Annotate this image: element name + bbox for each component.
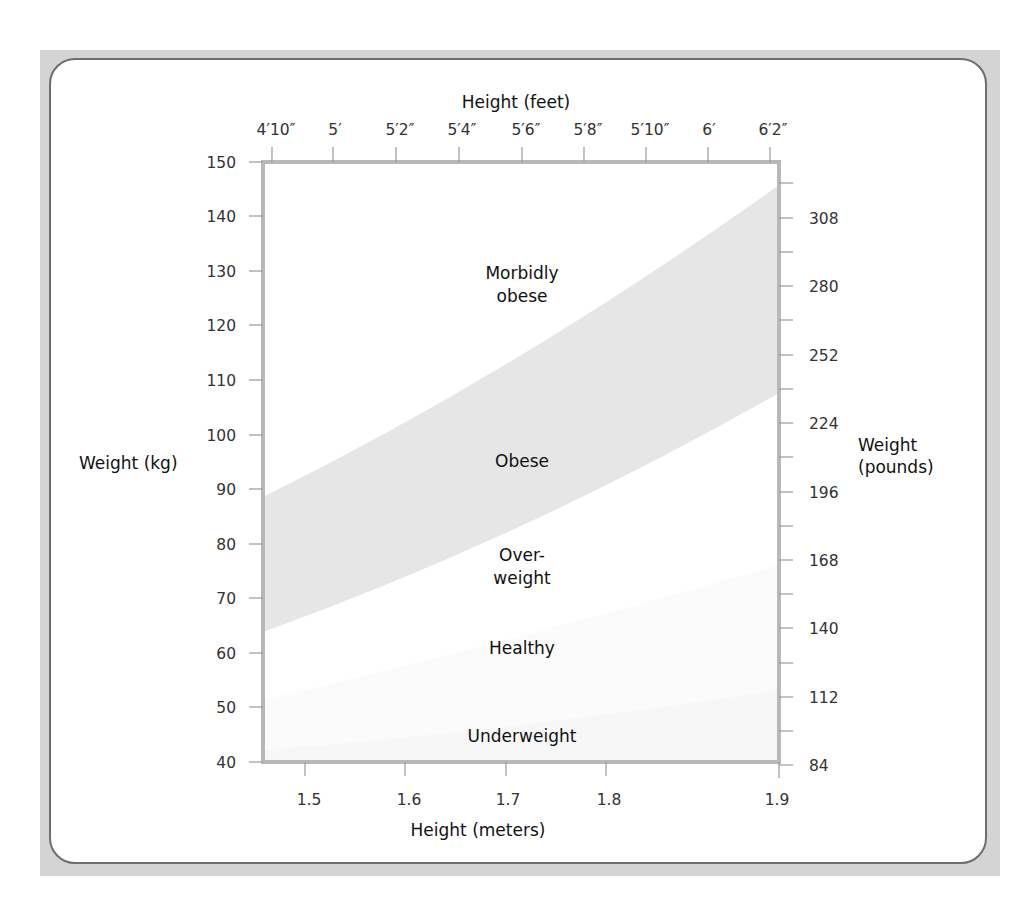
top-tick-label: 5′4″ (447, 121, 476, 139)
zone-label-overweight: Over- (499, 545, 545, 565)
zone-label-underweight: Underweight (468, 726, 577, 746)
left-tick-label: 110 (206, 372, 236, 390)
right-axis-title-line1: Weight (858, 435, 918, 455)
left-tick-label: 40 (216, 754, 236, 772)
top-tick-label: 5′8″ (573, 121, 602, 139)
right-tick-label: 224 (809, 415, 839, 433)
left-tick-label: 150 (206, 154, 236, 172)
left-axis-labels: 150 140 130 120 110 100 90 80 70 60 50 4… (206, 154, 236, 772)
zone-label-morbidly-obese: Morbidly (485, 263, 558, 283)
zone-label-morbidly-obese: obese (497, 286, 548, 306)
bottom-axis-ticks (305, 762, 606, 776)
bottom-tick-label: 1.6 (397, 791, 422, 809)
top-axis-labels: 4′10″ 5′ 5′2″ 5′4″ 5′6″ 5′8″ 5′10″ 6′ 6′… (257, 121, 788, 139)
top-tick-label: 5′10″ (631, 121, 670, 139)
top-tick-label: 5′2″ (385, 121, 414, 139)
right-tick-label: 280 (809, 278, 839, 296)
zone-label-obese: Obese (495, 451, 549, 471)
left-axis-title: Weight (kg) (79, 453, 178, 473)
bottom-tick-label: 1.9 (765, 791, 790, 809)
right-tick-label: 84 (809, 757, 829, 775)
left-tick-label: 120 (206, 317, 236, 335)
top-axis-title: Height (feet) (462, 92, 570, 112)
bottom-tick-label: 1.7 (496, 791, 521, 809)
top-tick-label: 5′6″ (511, 121, 540, 139)
right-tick-label: 168 (809, 552, 839, 570)
right-tick-label: 140 (809, 620, 839, 638)
right-axis-labels: 308 280 252 224 196 168 140 112 84 (809, 210, 839, 775)
left-axis-ticks (249, 162, 263, 762)
left-tick-label: 130 (206, 263, 236, 281)
zone-label-healthy: Healthy (489, 638, 555, 658)
bottom-axis-title: Height (meters) (411, 820, 546, 840)
right-axis-title-line2: (pounds) (858, 457, 934, 477)
left-tick-label: 90 (216, 481, 236, 499)
bottom-axis-labels: 1.5 1.6 1.7 1.8 1.9 (297, 791, 790, 809)
right-tick-label: 196 (809, 484, 839, 502)
left-tick-label: 80 (216, 536, 236, 554)
left-tick-label: 60 (216, 645, 236, 663)
left-tick-label: 140 (206, 208, 236, 226)
bottom-tick-label: 1.8 (597, 791, 622, 809)
right-tick-label: 112 (809, 689, 839, 707)
top-tick-label: 6′ (702, 121, 716, 139)
bottom-tick-label: 1.5 (297, 791, 322, 809)
zone-label-overweight: weight (493, 568, 551, 588)
bmi-chart: 4′10″ 5′ 5′2″ 5′4″ 5′6″ 5′8″ 5′10″ 6′ 6′… (0, 0, 1034, 914)
left-tick-label: 70 (216, 590, 236, 608)
top-tick-label: 6′2″ (758, 121, 787, 139)
right-tick-label: 252 (809, 347, 839, 365)
top-tick-label: 5′ (328, 121, 342, 139)
top-tick-label: 4′10″ (257, 121, 296, 139)
top-axis-ticks (272, 147, 770, 162)
right-tick-label: 308 (809, 210, 839, 228)
left-tick-label: 100 (206, 427, 236, 445)
left-tick-label: 50 (216, 699, 236, 717)
right-axis-ticks (779, 183, 793, 778)
